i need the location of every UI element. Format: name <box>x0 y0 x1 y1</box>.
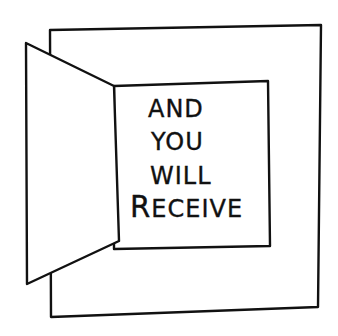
message-line-and: AND <box>148 97 204 121</box>
illustration-canvas: AND YOU WILL RECEIVE <box>0 0 338 336</box>
message-rest-eceive: ECEIVE <box>151 195 243 223</box>
message-initial-r: R <box>130 190 151 224</box>
message-line-will: WILL <box>150 164 212 188</box>
message-line-you: YOU <box>151 130 204 154</box>
message-line-receive: RECEIVE <box>130 193 243 222</box>
